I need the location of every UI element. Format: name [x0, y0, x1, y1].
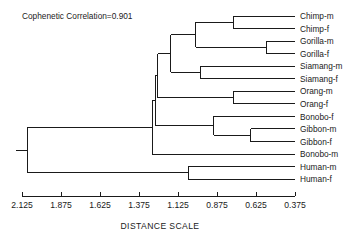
- axis-tick-label-6: 0.625: [245, 200, 267, 210]
- axis-title-distance-scale: DISTANCE SCALE: [121, 221, 200, 231]
- axis-tick-label-0: 2.125: [11, 200, 33, 210]
- distance-axis: [22, 192, 295, 196]
- axis-tick-labels: 2.1251.8751.6251.3751.1250.8750.6250.375: [11, 200, 306, 210]
- leaf-label-gorilla-f: Gorilla-f: [300, 49, 330, 59]
- leaf-label-human-m: Human-m: [300, 162, 337, 172]
- dendrogram-svg: Cophenetic Correlation=0.901 Chimp-mChim…: [0, 0, 352, 237]
- cophenetic-correlation-annotation: Cophenetic Correlation=0.901: [22, 11, 133, 21]
- leaf-label-orang-m: Orang-m: [300, 86, 333, 96]
- axis-tick-label-1: 1.875: [50, 200, 72, 210]
- leaf-label-gibbon-m: Gibbon-m: [300, 124, 337, 134]
- leaf-label-gibbon-f: Gibbon-f: [300, 137, 333, 147]
- leaf-label-chimp-m: Chimp-m: [300, 11, 334, 21]
- leaf-label-siamang-f: Siamang-f: [300, 74, 339, 84]
- axis-tick-label-3: 1.375: [128, 200, 150, 210]
- axis-tick-label-2: 1.625: [89, 200, 111, 210]
- axis-tick-label-4: 1.125: [167, 200, 189, 210]
- leaf-label-bonobo-f: Bonobo-f: [300, 112, 334, 122]
- leaf-label-human-f: Human-f: [300, 174, 333, 184]
- leaf-label-chimp-f: Chimp-f: [300, 24, 330, 34]
- leaf-label-bonobo-m: Bonobo-m: [300, 149, 338, 159]
- dendrogram-chart: Cophenetic Correlation=0.901 Chimp-mChim…: [0, 0, 352, 237]
- leaf-label-siamang-m: Siamang-m: [300, 61, 343, 71]
- leaf-labels: Chimp-mChimp-fGorilla-mGorilla-fSiamang-…: [300, 11, 343, 184]
- dendrogram-branches: [16, 16, 295, 179]
- leaf-label-gorilla-m: Gorilla-m: [300, 36, 334, 46]
- axis-tick-label-5: 0.875: [206, 200, 228, 210]
- axis-tick-label-7: 0.375: [284, 200, 306, 210]
- leaf-label-orang-f: Orang-f: [300, 99, 329, 109]
